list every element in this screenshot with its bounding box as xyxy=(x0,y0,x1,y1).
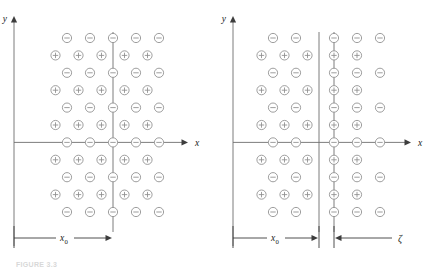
ion-positive xyxy=(280,190,289,199)
y-axis-label: y xyxy=(221,14,227,24)
ion-positive xyxy=(143,86,152,95)
lattice-left-block xyxy=(257,33,312,216)
ion-positive xyxy=(257,51,266,60)
ion-positive xyxy=(143,51,152,60)
ion-negative xyxy=(85,103,94,112)
ion-negative xyxy=(131,173,140,182)
ion-positive xyxy=(97,120,106,129)
ion-negative xyxy=(329,173,338,182)
dimension-x0-label-subscript: 0 xyxy=(275,238,279,245)
dimension-arrowhead-right xyxy=(106,235,113,241)
displaced-lattice-diagram: yxx0ζ xyxy=(219,0,439,266)
ion-positive xyxy=(352,86,361,95)
lattice-right-block xyxy=(329,33,384,216)
ion-negative xyxy=(329,103,338,112)
ion-negative xyxy=(268,207,277,216)
ion-positive xyxy=(329,155,338,164)
ion-positive xyxy=(303,51,312,60)
ion-positive xyxy=(329,51,338,60)
figure-caption: FIGURE 3.3 xyxy=(16,261,57,268)
ion-negative xyxy=(375,68,384,77)
ion-positive xyxy=(143,120,152,129)
ion-negative xyxy=(85,207,94,216)
dimension-zeta-label: ζ xyxy=(398,233,403,245)
ion-negative xyxy=(352,138,361,147)
ion-positive xyxy=(280,120,289,129)
ion-negative xyxy=(352,207,361,216)
ion-negative xyxy=(154,68,163,77)
ion-negative xyxy=(291,33,300,42)
ion-positive xyxy=(303,120,312,129)
ion-negative xyxy=(375,207,384,216)
ion-negative xyxy=(154,173,163,182)
ion-positive xyxy=(329,120,338,129)
ion-negative xyxy=(291,207,300,216)
ion-negative xyxy=(329,207,338,216)
ion-negative xyxy=(268,68,277,77)
ion-negative xyxy=(108,173,117,182)
ion-negative xyxy=(108,207,117,216)
panel-right: yxx0ζ xyxy=(219,0,439,266)
y-axis-label: y xyxy=(2,14,8,24)
ion-positive xyxy=(280,86,289,95)
ion-negative xyxy=(291,138,300,147)
ion-positive xyxy=(51,86,60,95)
ion-negative xyxy=(108,103,117,112)
ion-negative xyxy=(62,33,71,42)
ion-positive xyxy=(280,155,289,164)
ion-negative xyxy=(85,173,94,182)
ion-negative xyxy=(131,68,140,77)
ion-positive xyxy=(303,190,312,199)
ion-positive xyxy=(74,190,83,199)
dimension-x0-label-subscript: 0 xyxy=(64,238,68,245)
ion-positive xyxy=(120,155,129,164)
ion-negative xyxy=(352,103,361,112)
x-axis-arrowhead xyxy=(182,139,189,145)
ion-positive xyxy=(329,190,338,199)
ion-positive xyxy=(257,155,266,164)
ion-positive xyxy=(97,51,106,60)
ion-positive xyxy=(352,190,361,199)
ion-negative xyxy=(291,103,300,112)
ion-negative xyxy=(85,33,94,42)
dimension-arrowhead-left xyxy=(335,235,342,241)
x-axis-arrowhead xyxy=(405,139,412,145)
y-axis-arrowhead xyxy=(11,16,17,23)
ion-positive xyxy=(303,86,312,95)
ion-negative xyxy=(62,173,71,182)
ion-positive xyxy=(97,155,106,164)
ion-positive xyxy=(74,155,83,164)
ion-positive xyxy=(257,190,266,199)
ion-positive xyxy=(303,155,312,164)
ion-positive xyxy=(74,120,83,129)
ion-negative xyxy=(154,207,163,216)
ion-negative xyxy=(268,33,277,42)
ion-positive xyxy=(51,155,60,164)
ion-negative xyxy=(268,103,277,112)
ion-negative xyxy=(375,173,384,182)
ion-negative xyxy=(131,33,140,42)
ion-positive xyxy=(120,51,129,60)
ion-negative xyxy=(108,138,117,147)
ion-negative xyxy=(352,68,361,77)
ion-negative xyxy=(62,103,71,112)
ion-negative xyxy=(352,173,361,182)
ion-negative xyxy=(62,68,71,77)
ion-negative xyxy=(329,68,338,77)
ion-positive xyxy=(51,190,60,199)
ion-negative xyxy=(108,68,117,77)
ion-positive xyxy=(280,51,289,60)
undisplaced-lattice-diagram: yxx0 xyxy=(0,0,219,266)
ion-negative xyxy=(131,103,140,112)
ion-negative xyxy=(329,138,338,147)
ion-positive xyxy=(120,86,129,95)
ion-positive xyxy=(352,155,361,164)
ion-positive xyxy=(257,120,266,129)
ion-positive xyxy=(352,120,361,129)
x-axis-label: x xyxy=(194,138,200,148)
ion-positive xyxy=(352,51,361,60)
ion-negative xyxy=(62,138,71,147)
ion-positive xyxy=(257,86,266,95)
ion-negative xyxy=(268,138,277,147)
